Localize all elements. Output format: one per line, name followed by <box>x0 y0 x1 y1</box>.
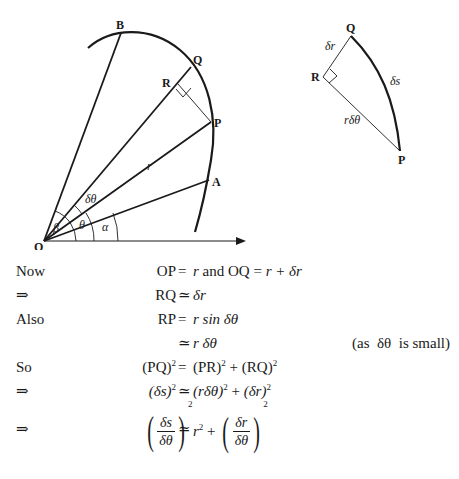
line-rhs: r δθ <box>193 334 217 352</box>
line-relation: = <box>178 310 186 328</box>
rhs-exponent: 2 <box>263 399 268 409</box>
theta-label: θ <box>79 218 85 232</box>
line-lhs: (PQ)2 <box>142 358 176 376</box>
line-lhs: OP <box>157 262 176 280</box>
line-rhs: δr <box>193 286 206 304</box>
rhs-term-b: (δr) <box>244 383 267 399</box>
lhs-exponent: 2 <box>188 399 193 409</box>
line-lhs: RP <box>158 310 176 328</box>
fraction-dr-dtheta: δrδθ <box>233 414 250 449</box>
angle-arc-alpha <box>113 213 118 241</box>
rhs-term-b: (RQ) <box>242 359 273 375</box>
alpha-label: α <box>102 220 109 234</box>
lhs-base: (PQ) <box>142 359 171 375</box>
line-relation: ≃ <box>178 286 191 304</box>
point-P-label: P <box>214 116 221 130</box>
arrow-head-icon <box>236 237 246 245</box>
right-paren: ) <box>253 412 260 452</box>
line-note: (as δθ is small) <box>352 334 450 352</box>
rhs-plus: + <box>226 359 242 375</box>
line-lead-word: ⇒ <box>16 286 29 304</box>
rhs-fraction-group: r2 + (δrδθ)2 <box>193 404 268 452</box>
rhs-OQ: OQ <box>228 263 250 279</box>
line-lead-word: Also <box>16 310 44 328</box>
radius-r-label: r <box>147 159 152 173</box>
rhs-and: and <box>199 263 228 279</box>
line-lead-word: ⇒ <box>16 420 29 438</box>
radius-OQ <box>44 67 191 241</box>
rhs-term-a: (rδθ) <box>193 383 223 399</box>
line-lead-word: Now <box>16 262 45 280</box>
line-rhs: r sin δθ <box>193 310 238 328</box>
lhs-exponent: 2 <box>172 358 177 368</box>
rhs-plus: + <box>203 423 219 439</box>
point-Q-label: Q <box>193 53 202 67</box>
lhs-base: (δs) <box>149 383 172 399</box>
rhs-term-a: (PR) <box>193 359 221 375</box>
line-rhs: r and OQ = r + δr <box>193 262 302 280</box>
lhs-fraction-group: (δsδθ)2 <box>144 404 193 451</box>
radius-OB <box>44 33 121 241</box>
line-lhs: RQ <box>155 286 176 304</box>
fraction-denominator: δθ <box>157 432 174 449</box>
angle-arc-delta-theta <box>74 205 82 214</box>
angle-arc-theta <box>86 213 94 241</box>
point-B-label: B <box>116 18 124 32</box>
line-rhs: (PR)2 + (RQ)2 <box>193 358 277 376</box>
point-A-label: A <box>212 175 221 189</box>
fraction-ds-dtheta: δsδθ <box>157 414 174 449</box>
rhs-plus: + <box>228 383 244 399</box>
line-relation: = <box>178 262 186 280</box>
rhs-equals: = <box>250 263 266 279</box>
fraction-numerator: δr <box>233 414 250 432</box>
line-relation: ≃ <box>178 334 191 352</box>
right-paren: ) <box>178 411 185 451</box>
fraction-numerator: δs <box>157 414 174 432</box>
line-relation: ≃ <box>178 382 191 400</box>
rhs-term-b-exponent: 2 <box>266 382 271 392</box>
beta-label: β <box>52 221 59 235</box>
radius-OP <box>44 122 211 241</box>
line-rhs: (rδθ)2 + (δr)2 <box>193 382 271 400</box>
point-O-label: O <box>34 240 43 250</box>
line-lead-word: ⇒ <box>16 382 29 400</box>
left-paren: ( <box>223 412 230 452</box>
polar-arc-diagram: B Q R P A O r δθ θ α β <box>0 0 459 250</box>
line-relation: = <box>178 358 186 376</box>
right-angle-mark <box>176 88 191 97</box>
left-paren: ( <box>147 411 154 451</box>
lhs-exponent: 2 <box>172 382 177 392</box>
point-R-label: R <box>162 76 171 90</box>
fraction-denominator: δθ <box>233 432 250 449</box>
delta-theta-label: δθ <box>85 192 97 206</box>
rhs-r-plus-dr: r + δr <box>266 263 302 279</box>
line-lhs: (δs)2 <box>149 382 176 400</box>
line-lead-word: So <box>16 358 32 376</box>
rhs-term-b-exponent: 2 <box>273 358 278 368</box>
